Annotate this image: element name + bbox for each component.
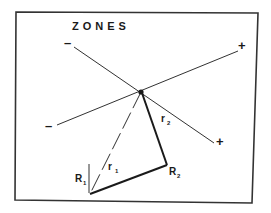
axis-b-negative-label: – [45,118,52,133]
r1-segment-subscript: 1 [115,168,119,174]
axis-b-positive-label: + [238,38,246,53]
R2-point-subscript: 2 [177,173,181,179]
R1-point-subscript: 1 [83,180,87,186]
axis-a-line [74,47,214,143]
diagram-frame [15,12,258,203]
r2-segment-label: r [161,113,165,124]
R1-point-label: R [75,173,83,184]
segment-r1-r2 [90,165,167,194]
segment-r2 [142,93,167,165]
axis-a-positive-label: + [216,134,224,149]
zones-diagram: ZONES – + – + r 1 r 2 R 1 R 2 [0,0,271,213]
axis-b-line [57,51,238,125]
r2-segment-subscript: 2 [167,120,171,126]
axis-a-negative-label: – [64,35,71,50]
r1-segment-label: r [108,161,112,172]
R2-point-label: R [169,166,177,177]
diagram-title: ZONES [72,20,130,32]
